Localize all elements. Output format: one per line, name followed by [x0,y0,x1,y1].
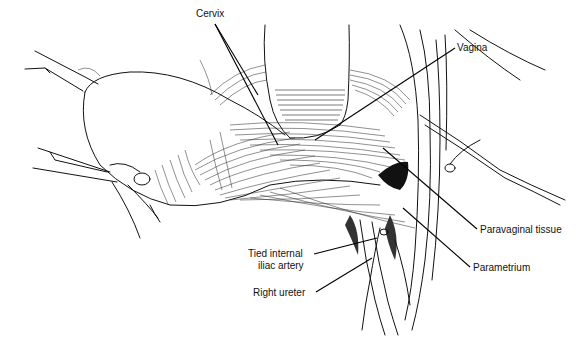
label-paravaginal-tissue: Paravaginal tissue [480,224,562,235]
retractor-blade [264,25,349,138]
peritoneal-folds [200,60,410,116]
anatomical-illustration: Cervix Vagina Paravaginal tissue Paramet… [0,0,588,343]
label-cervix: Cervix [196,8,224,19]
ureter-and-artery [360,220,410,335]
label-tied-internal-iliac-artery-line2: iliac artery [258,260,304,271]
label-parametrium: Parametrium [473,262,530,273]
label-tied-internal-iliac-artery-line1: Tied internal [248,248,303,259]
fibrous-tissue-hatching [155,122,415,228]
uterus-body [83,72,380,238]
label-right-ureter: Right ureter [253,287,305,298]
lower-clamp-icon [33,148,150,185]
label-vagina: Vagina [457,42,487,53]
vessels-right [400,25,565,330]
upper-clamp-icon [25,51,100,91]
